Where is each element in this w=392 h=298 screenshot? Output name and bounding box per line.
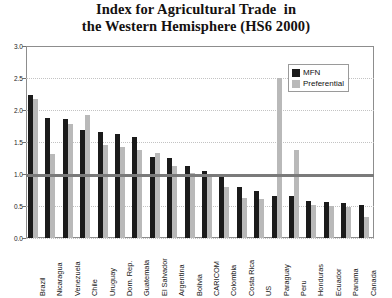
bar-group (339, 46, 356, 238)
x-tick-label: Peru (299, 280, 308, 296)
x-tick-label: Ecuador (334, 268, 343, 296)
x-tick-label: Honduras (316, 264, 325, 296)
bar-group (252, 46, 269, 238)
bar-preferential (50, 154, 55, 238)
bar-group (78, 46, 95, 238)
bar-group (61, 46, 78, 238)
reference-line (26, 174, 374, 177)
bar-group (130, 46, 147, 238)
bar-group (217, 46, 234, 238)
x-tick-label: Costa Rica (247, 260, 256, 296)
bar-preferential (137, 150, 142, 238)
bar-group (322, 46, 339, 238)
chart-page: Index for Agricultural Trade in the West… (0, 0, 392, 298)
y-axis: 0.00.51.01.52.02.53.0 (0, 0, 26, 298)
x-tick-label: US (264, 286, 273, 296)
bar-preferential (329, 206, 334, 238)
bar-preferential (155, 153, 160, 238)
bar-preferential (294, 150, 299, 238)
bar-preferential (242, 198, 247, 238)
chart-title: Index for Agricultural Trade in the West… (0, 1, 392, 35)
chart-title-line-2: the Western Hemisphere (HS6 2000) (0, 18, 392, 35)
x-tick-label: Dom. Rep. (125, 261, 134, 296)
x-tick-label: Brazil (38, 278, 47, 296)
x-tick-label: Nicaragua (55, 262, 64, 296)
bar-preferential (33, 99, 38, 238)
bar-group (235, 46, 252, 238)
bar-group (304, 46, 321, 238)
bar-group (148, 46, 165, 238)
bar-group (165, 46, 182, 238)
bar-preferential (364, 217, 369, 238)
bar-group (96, 46, 113, 238)
bar-preferential (311, 205, 316, 238)
bar-preferential (103, 145, 108, 238)
bar-preferential (224, 187, 229, 238)
x-tick-label: Uruguay (108, 268, 117, 296)
x-tick-label: Bolivia (195, 274, 204, 296)
bar-preferential (68, 124, 73, 238)
bar-preferential (207, 175, 212, 238)
bar-group (183, 46, 200, 238)
bar-group (26, 46, 43, 238)
x-tick-label: Chile (90, 279, 99, 296)
x-tick-label: Canada (369, 270, 378, 296)
chart-title-line-1: Index for Agricultural Trade in (0, 1, 392, 18)
bar-group (287, 46, 304, 238)
bar-preferential (190, 173, 195, 238)
bar-group (113, 46, 130, 238)
bar-preferential (259, 199, 264, 238)
x-tick-label: Paraguay (282, 264, 291, 296)
bar-preferential (172, 166, 177, 238)
bar-preferential (346, 207, 351, 238)
x-tick-label: Venezuela (73, 261, 82, 296)
x-tick-label: Argentina (177, 264, 186, 296)
bar-preferential (277, 78, 282, 238)
bar-group (200, 46, 217, 238)
bar-group (357, 46, 374, 238)
bar-group (43, 46, 60, 238)
x-tick-label: Colombia (229, 265, 238, 296)
x-tick-label: Panama (351, 268, 360, 296)
x-tick-label: Guatemala (142, 260, 151, 296)
x-axis: BrazilNicaraguaVenezuelaChileUruguayDom.… (26, 240, 374, 298)
plot-area (26, 46, 374, 238)
bar-preferential (120, 147, 125, 238)
bar-group (270, 46, 287, 238)
x-tick-label: CARICOM (212, 261, 221, 296)
gridline (26, 238, 374, 239)
x-tick-label: El Salvador (160, 258, 169, 296)
